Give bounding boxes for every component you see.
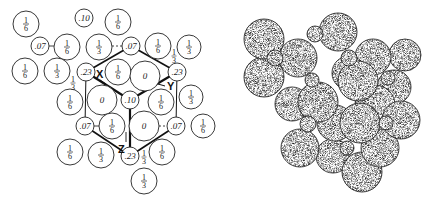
sphere — [338, 61, 378, 101]
sphere — [340, 141, 354, 155]
sphere — [389, 39, 421, 71]
sphere — [305, 73, 319, 87]
sphere — [300, 116, 316, 132]
sphere — [298, 82, 338, 122]
sphere — [341, 50, 357, 66]
sphere — [340, 103, 380, 143]
sphere — [379, 116, 393, 130]
spheres — [244, 13, 421, 192]
sphere — [307, 26, 323, 42]
figure: 16.1016.071613.0716131613.23160.23160.10… — [0, 0, 440, 206]
sphere — [319, 13, 357, 51]
sphere — [281, 129, 319, 167]
sphere — [267, 50, 283, 66]
sphere-packing-model — [0, 0, 440, 206]
sphere — [381, 71, 395, 85]
sphere — [279, 39, 317, 77]
